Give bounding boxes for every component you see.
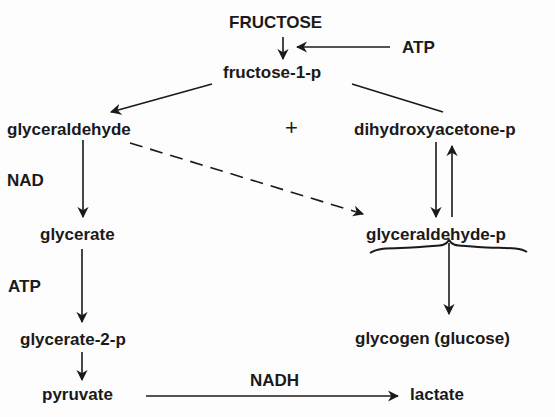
plus-sign: + (285, 117, 298, 139)
node-glycogen: glycogen (glucose) (355, 330, 510, 347)
arrow-f1p-to-glyceraldehyde (111, 84, 212, 112)
pathway-diagram: FRUCTOSE ATP fructose-1-p glyceraldehyde… (0, 0, 555, 417)
cofactor-nad: NAD (7, 172, 44, 189)
node-dihydroxyacetone-p: dihydroxyacetone-p (354, 121, 516, 138)
node-lactate: lactate (410, 386, 464, 403)
cofactor-atp-top: ATP (402, 39, 435, 56)
node-glycerate: glycerate (40, 226, 115, 243)
node-glyceraldehyde: glyceraldehyde (7, 121, 131, 138)
node-glyceraldehyde-p: glyceraldehyde-p (366, 226, 506, 243)
node-fructose-1-p: fructose-1-p (223, 64, 321, 81)
node-glycerate-2-p: glycerate-2-p (20, 331, 126, 348)
line-f1p-to-dhap (352, 84, 443, 112)
cofactor-atp-mid: ATP (8, 278, 41, 295)
node-pyruvate: pyruvate (42, 386, 113, 403)
arrow-dashed-glyceraldehyde-to-gap (130, 143, 363, 214)
cofactor-nadh: NADH (250, 372, 299, 389)
node-fructose: FRUCTOSE (229, 14, 322, 31)
